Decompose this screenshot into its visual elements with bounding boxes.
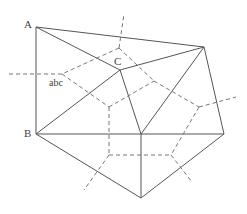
edge-TR-M	[141, 47, 204, 134]
dual-edge	[62, 48, 119, 74]
dual-edge	[119, 48, 154, 81]
triangulation-diagram	[0, 0, 247, 214]
edge-A-TR	[36, 27, 204, 47]
vertex-label-c: C	[114, 56, 121, 67]
edge-B-BOT	[36, 134, 141, 198]
dual-edge	[109, 81, 154, 107]
voronoi-dual-edges	[8, 14, 236, 190]
vertex-label-b: B	[24, 128, 31, 139]
dual-edge	[119, 14, 124, 48]
edge-R-BOT	[141, 134, 224, 198]
vertex-label-a: A	[24, 19, 32, 30]
edge-C-M	[120, 70, 141, 134]
triangulation-edges	[36, 27, 224, 198]
edge-A-C	[36, 27, 120, 70]
dual-edge	[171, 155, 192, 182]
edge-label-abc: abc	[49, 78, 63, 88]
dual-edge	[84, 155, 109, 190]
dual-edge	[62, 74, 109, 107]
edge-TR-R	[204, 47, 224, 134]
edge-C-TR	[120, 47, 204, 70]
dual-edge	[171, 107, 199, 155]
